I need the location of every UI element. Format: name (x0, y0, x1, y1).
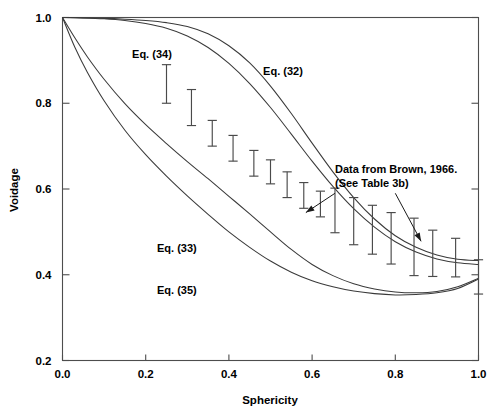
x-tick-label-4: 0.8 (387, 368, 404, 380)
x-tick-label-1: 0.2 (138, 368, 154, 380)
curve-label-3: Eq. (35) (157, 284, 197, 296)
y-tick-label-1: 0.4 (36, 269, 53, 281)
x-tick-label-0: 0.0 (55, 368, 71, 380)
x-tick-label-5: 1.0 (471, 368, 487, 380)
x-tick-label-3: 0.6 (304, 368, 320, 380)
annotation-text-line-1: Data from Brown, 1966. (335, 163, 457, 175)
x-axis-title: Sphericity (242, 394, 298, 406)
y-tick-label-0: 0.2 (36, 355, 52, 367)
curve-label-0: Eq. (32) (263, 65, 303, 77)
y-tick-label-3: 0.8 (36, 97, 53, 109)
x-tick-label-2: 0.4 (221, 368, 238, 380)
annotation-text-line-2: (See Table 3b) (335, 177, 409, 189)
curve-label-1: Eq. (34) (132, 48, 172, 60)
figure-container: 0.00.20.40.60.81.0 0.20.40.60.81.0 Eq. (… (0, 0, 499, 416)
y-tick-label-2: 0.6 (36, 183, 52, 195)
y-axis-title: Voidage (8, 168, 20, 212)
y-tick-label-4: 1.0 (36, 12, 52, 24)
voidage-sphericity-chart: 0.00.20.40.60.81.0 0.20.40.60.81.0 Eq. (… (0, 0, 499, 416)
curve-label-2: Eq. (33) (157, 242, 197, 254)
